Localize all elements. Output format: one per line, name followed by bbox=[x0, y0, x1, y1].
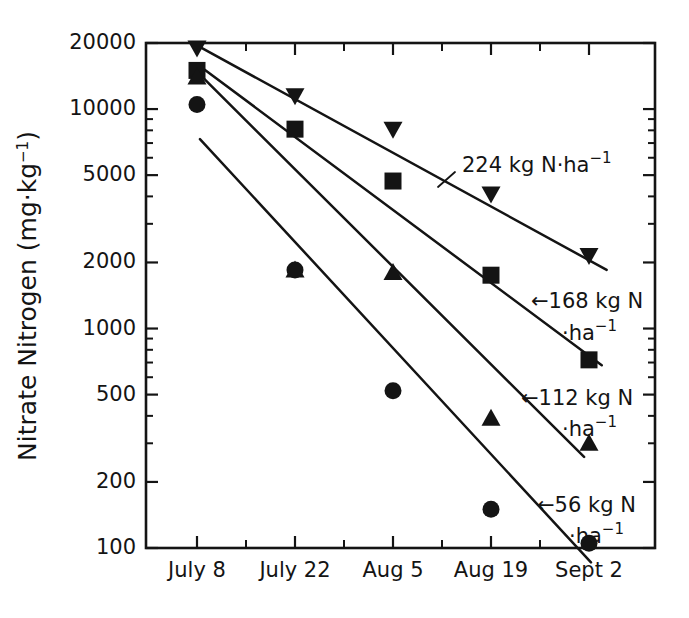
annotation-label: ←112 kg N bbox=[521, 386, 633, 410]
data-point-circle bbox=[483, 501, 500, 518]
data-point-triangle-up bbox=[384, 263, 403, 280]
y-tick-label: 200 bbox=[96, 469, 136, 493]
y-axis-tick-labels: 2000010000500020001000500200100 bbox=[69, 30, 136, 559]
annotation-label-line2: ·ha−1 bbox=[562, 317, 617, 346]
data-point-triangle-up bbox=[482, 409, 501, 426]
y-axis-title: Nitrate Nitrogen (mg·kg−1) bbox=[13, 131, 42, 461]
x-tick-label: Aug 5 bbox=[362, 558, 423, 582]
y-tick-label: 10000 bbox=[69, 96, 136, 120]
annotation-label: ←168 kg N bbox=[531, 289, 643, 313]
y-tick-label: 5000 bbox=[83, 162, 136, 186]
y-tick-label: 500 bbox=[96, 382, 136, 406]
nitrate-nitrogen-decay-chart: 2000010000500020001000500200100 July 8Ju… bbox=[0, 0, 689, 618]
x-tick-label: July 8 bbox=[166, 558, 226, 582]
data-point-circle bbox=[385, 382, 402, 399]
data-point-circle bbox=[287, 261, 304, 278]
data-point-triangle-down bbox=[384, 122, 403, 139]
x-axis-tick-labels: July 8July 22Aug 5Aug 19Sept 2 bbox=[166, 558, 623, 582]
regression-line bbox=[199, 65, 602, 365]
y-tick-label: 2000 bbox=[83, 249, 136, 273]
annotation-label: ←56 kg N bbox=[537, 493, 636, 517]
y-axis-title-exponent: −1 bbox=[14, 141, 32, 163]
regression-line bbox=[200, 139, 591, 562]
y-axis-title-close: ) bbox=[13, 131, 42, 141]
annotation-label-line2: ·ha−1 bbox=[569, 520, 624, 549]
annotation-label-line2: ·ha−1 bbox=[562, 413, 617, 442]
x-tick-label: July 22 bbox=[257, 558, 330, 582]
data-point-circle bbox=[189, 96, 206, 113]
data-point-triangle-down bbox=[482, 187, 501, 204]
annotation-label: 224 kg N·ha−1 bbox=[462, 149, 612, 178]
data-point-square bbox=[385, 173, 402, 190]
data-point-square bbox=[581, 351, 598, 368]
data-point-square bbox=[483, 267, 500, 284]
figure-container: 2000010000500020001000500200100 July 8Ju… bbox=[0, 0, 689, 618]
y-axis-title-main: Nitrate Nitrogen (mg·kg bbox=[13, 163, 42, 461]
data-point-square bbox=[287, 121, 304, 138]
x-tick-label: Aug 19 bbox=[454, 558, 528, 582]
y-tick-label: 20000 bbox=[69, 30, 136, 54]
y-tick-label: 100 bbox=[96, 535, 136, 559]
y-axis-title-text: Nitrate Nitrogen (mg·kg−1) bbox=[13, 131, 42, 461]
y-tick-label: 1000 bbox=[83, 316, 136, 340]
series-annotations: 224 kg N·ha−1←168 kg N·ha−1←112 kg N·ha−… bbox=[438, 149, 643, 549]
